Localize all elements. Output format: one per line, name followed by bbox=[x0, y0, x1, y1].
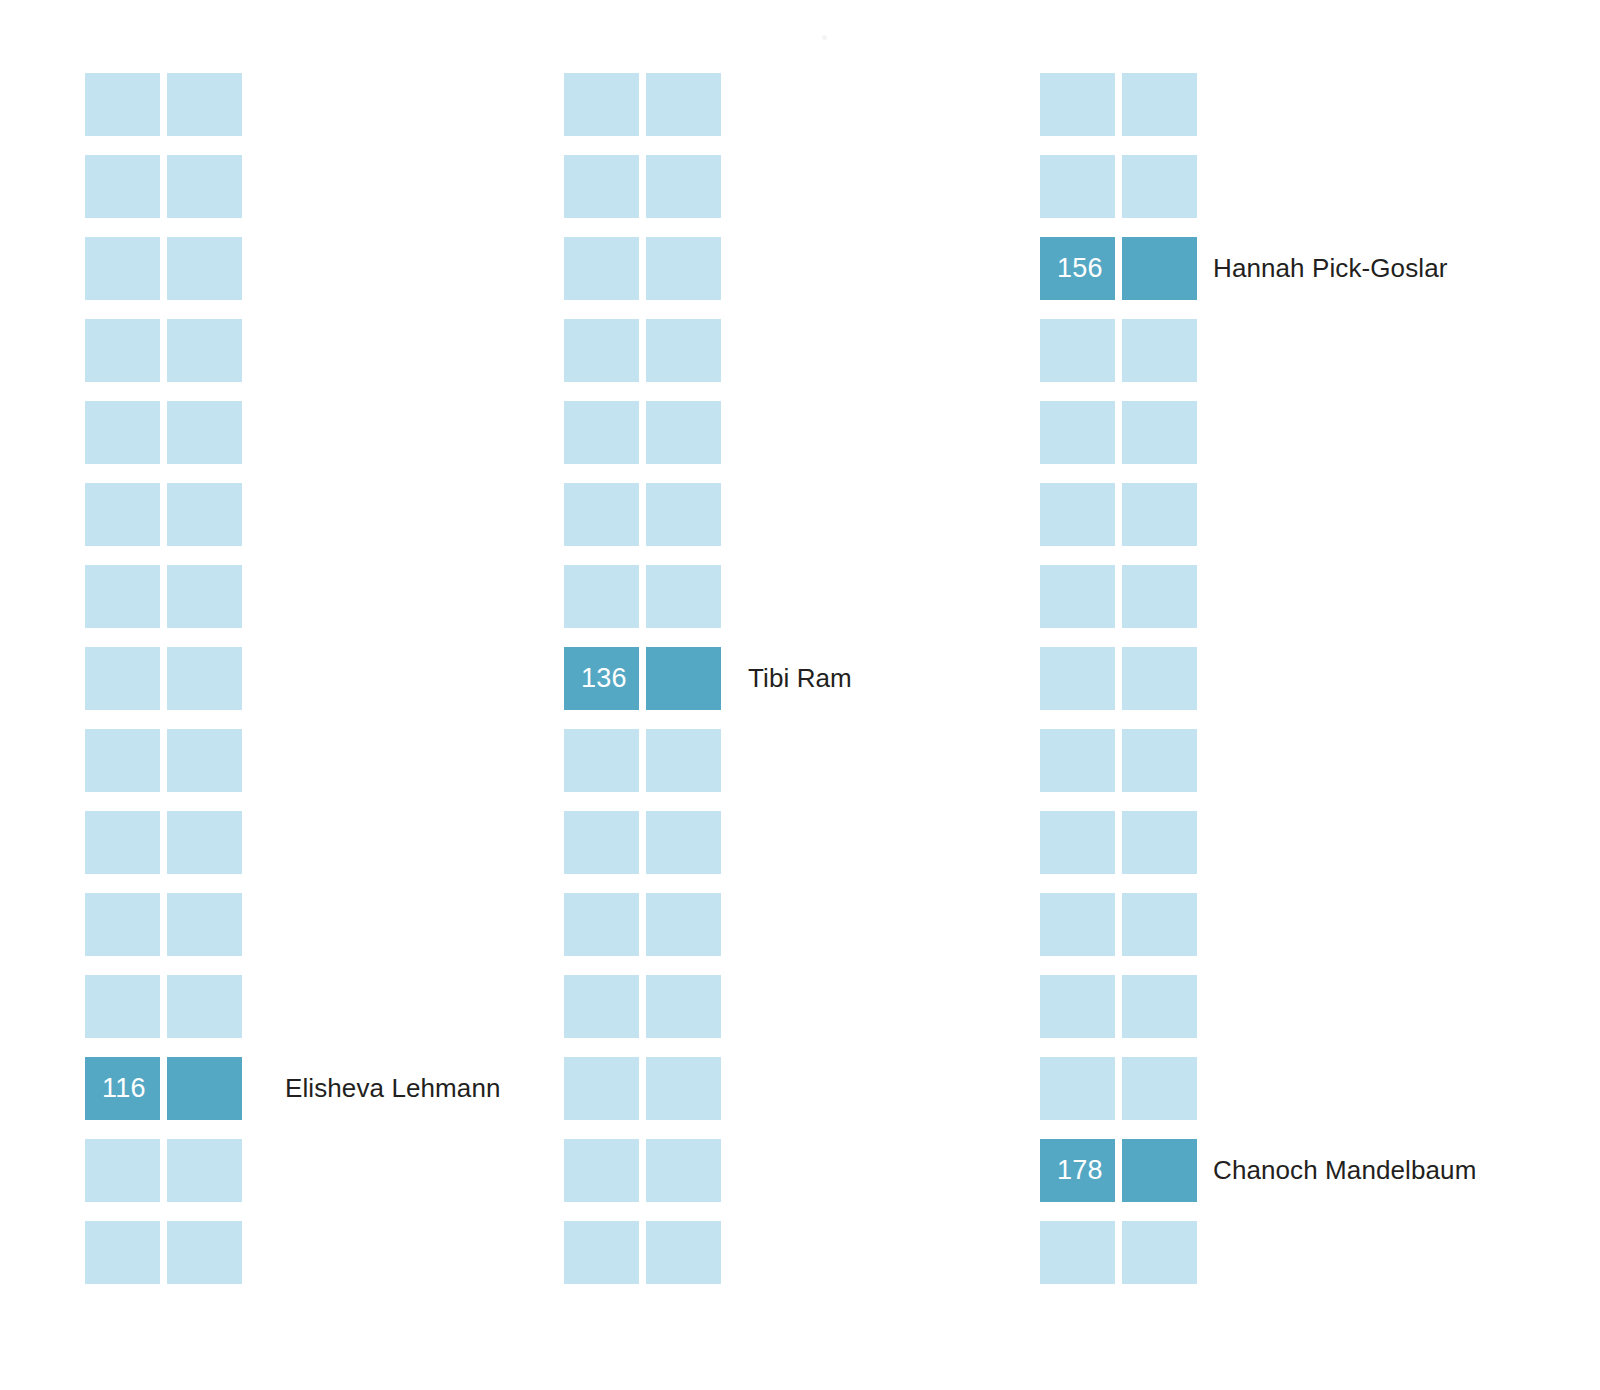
grid-cell[interactable] bbox=[1122, 155, 1197, 218]
grid-cell[interactable] bbox=[646, 1057, 721, 1120]
grid-cell[interactable] bbox=[1040, 729, 1115, 792]
grid-cell[interactable]: 136 bbox=[564, 647, 639, 710]
grid-cell[interactable] bbox=[167, 1139, 242, 1202]
grid-row[interactable] bbox=[1040, 319, 1197, 382]
grid-row[interactable] bbox=[1040, 1057, 1197, 1120]
grid-cell[interactable] bbox=[167, 811, 242, 874]
grid-cell[interactable] bbox=[85, 647, 160, 710]
grid-row[interactable] bbox=[564, 401, 721, 464]
grid-cell[interactable] bbox=[564, 1057, 639, 1120]
grid-row[interactable] bbox=[85, 811, 242, 874]
grid-row[interactable] bbox=[564, 1139, 721, 1202]
grid-cell[interactable] bbox=[85, 729, 160, 792]
grid-cell[interactable] bbox=[85, 401, 160, 464]
grid-row[interactable] bbox=[85, 1221, 242, 1284]
grid-row[interactable] bbox=[1040, 975, 1197, 1038]
grid-cell[interactable] bbox=[85, 1139, 160, 1202]
grid-cell[interactable]: 116 bbox=[85, 1057, 160, 1120]
grid-cell[interactable] bbox=[646, 155, 721, 218]
grid-cell[interactable] bbox=[564, 811, 639, 874]
grid-cell[interactable] bbox=[1040, 975, 1115, 1038]
grid-cell[interactable] bbox=[646, 811, 721, 874]
grid-row[interactable] bbox=[85, 975, 242, 1038]
grid-row[interactable] bbox=[1040, 565, 1197, 628]
grid-cell[interactable] bbox=[646, 73, 721, 136]
grid-cell[interactable]: 156 bbox=[1040, 237, 1115, 300]
grid-cell[interactable] bbox=[1122, 401, 1197, 464]
grid-cell[interactable] bbox=[646, 237, 721, 300]
grid-cell[interactable] bbox=[1040, 73, 1115, 136]
grid-cell[interactable] bbox=[564, 1221, 639, 1284]
grid-row[interactable] bbox=[85, 647, 242, 710]
grid-row-highlighted[interactable]: 136 bbox=[564, 647, 721, 710]
grid-cell[interactable] bbox=[1040, 1221, 1115, 1284]
grid-row[interactable] bbox=[1040, 1221, 1197, 1284]
grid-row[interactable] bbox=[85, 565, 242, 628]
grid-row[interactable] bbox=[85, 319, 242, 382]
grid-row-highlighted[interactable]: 156 bbox=[1040, 237, 1197, 300]
grid-row[interactable] bbox=[1040, 729, 1197, 792]
grid-cell[interactable] bbox=[1122, 319, 1197, 382]
grid-cell[interactable] bbox=[167, 975, 242, 1038]
grid-cell[interactable] bbox=[1122, 1221, 1197, 1284]
grid-cell[interactable] bbox=[646, 483, 721, 546]
grid-cell[interactable] bbox=[85, 155, 160, 218]
grid-cell[interactable] bbox=[167, 319, 242, 382]
grid-row[interactable] bbox=[564, 483, 721, 546]
grid-cell[interactable] bbox=[564, 73, 639, 136]
grid-row[interactable] bbox=[1040, 893, 1197, 956]
grid-cell[interactable]: 178 bbox=[1040, 1139, 1115, 1202]
grid-cell[interactable] bbox=[167, 483, 242, 546]
grid-row[interactable] bbox=[85, 1139, 242, 1202]
grid-cell[interactable] bbox=[1122, 73, 1197, 136]
grid-row[interactable] bbox=[564, 565, 721, 628]
grid-cell[interactable] bbox=[167, 155, 242, 218]
grid-cell[interactable] bbox=[564, 401, 639, 464]
grid-cell[interactable] bbox=[564, 237, 639, 300]
grid-row[interactable] bbox=[85, 237, 242, 300]
grid-cell[interactable] bbox=[564, 975, 639, 1038]
grid-cell[interactable] bbox=[646, 565, 721, 628]
grid-row[interactable] bbox=[564, 319, 721, 382]
grid-row[interactable] bbox=[1040, 401, 1197, 464]
grid-cell[interactable] bbox=[167, 565, 242, 628]
grid-row[interactable] bbox=[564, 893, 721, 956]
grid-row[interactable] bbox=[85, 155, 242, 218]
grid-row[interactable] bbox=[85, 483, 242, 546]
grid-cell[interactable] bbox=[646, 319, 721, 382]
grid-row-highlighted[interactable]: 116 bbox=[85, 1057, 242, 1120]
grid-cell[interactable] bbox=[85, 319, 160, 382]
grid-cell[interactable] bbox=[85, 975, 160, 1038]
grid-row[interactable] bbox=[564, 975, 721, 1038]
grid-cell[interactable] bbox=[1040, 155, 1115, 218]
grid-cell[interactable] bbox=[646, 647, 721, 710]
grid-row[interactable] bbox=[564, 1221, 721, 1284]
grid-cell[interactable] bbox=[1040, 483, 1115, 546]
grid-cell[interactable] bbox=[646, 401, 721, 464]
grid-row[interactable] bbox=[564, 237, 721, 300]
grid-row[interactable] bbox=[85, 401, 242, 464]
grid-cell[interactable] bbox=[167, 401, 242, 464]
grid-row[interactable] bbox=[1040, 73, 1197, 136]
grid-row-highlighted[interactable]: 178 bbox=[1040, 1139, 1197, 1202]
grid-row[interactable] bbox=[564, 73, 721, 136]
grid-cell[interactable] bbox=[167, 893, 242, 956]
grid-cell[interactable] bbox=[1122, 1139, 1197, 1202]
grid-cell[interactable] bbox=[167, 1057, 242, 1120]
grid-cell[interactable] bbox=[1040, 1057, 1115, 1120]
grid-cell[interactable] bbox=[564, 729, 639, 792]
grid-row[interactable] bbox=[1040, 155, 1197, 218]
grid-cell[interactable] bbox=[85, 1221, 160, 1284]
grid-cell[interactable] bbox=[646, 1221, 721, 1284]
grid-cell[interactable] bbox=[646, 975, 721, 1038]
grid-cell[interactable] bbox=[1040, 811, 1115, 874]
grid-cell[interactable] bbox=[1122, 729, 1197, 792]
grid-cell[interactable] bbox=[1122, 483, 1197, 546]
grid-cell[interactable] bbox=[85, 483, 160, 546]
grid-row[interactable] bbox=[85, 73, 242, 136]
grid-cell[interactable] bbox=[1122, 237, 1197, 300]
grid-cell[interactable] bbox=[167, 237, 242, 300]
grid-cell[interactable] bbox=[85, 893, 160, 956]
grid-cell[interactable] bbox=[646, 729, 721, 792]
grid-cell[interactable] bbox=[1040, 893, 1115, 956]
